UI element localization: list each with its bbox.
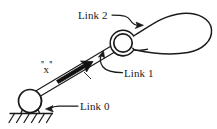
x-arrow-whisker [84, 72, 91, 79]
label-link-0: Link 0 [80, 101, 110, 112]
joint-inner-circle [114, 34, 132, 52]
fixed-ground-hatching [9, 114, 52, 123]
label-x-quote-close: '' [49, 59, 52, 70]
link2-leader [112, 15, 144, 29]
x-arrow-shaft [57, 61, 94, 84]
ground-leg-right [38, 110, 40, 114]
x-arrow [57, 61, 94, 84]
ground-leg-left [21, 110, 23, 114]
label-link-1: Link 1 [124, 68, 154, 79]
link0-leader-line [50, 106, 79, 109]
label-link-2: Link 2 [78, 10, 108, 21]
link0-leader [46, 106, 79, 112]
label-x: ''x'' [41, 60, 52, 75]
link-2-body [133, 13, 212, 54]
link0-leader-arrowhead [46, 106, 54, 112]
link2-leader-line [112, 15, 140, 26]
linkage-diagram: Link 2 Link 1 Link 0 ''x'' [0, 0, 217, 129]
revolute-joint [110, 30, 136, 56]
